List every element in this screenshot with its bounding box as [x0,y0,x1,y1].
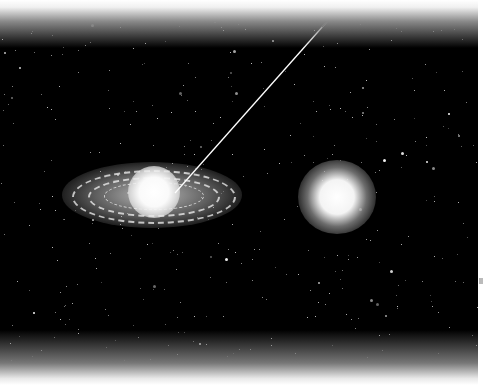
top-fade [0,0,481,48]
right-edge [478,0,481,385]
leader-line [0,0,481,385]
starfield-image [0,0,481,385]
edge-marker [479,278,483,284]
bottom-fade [0,330,481,385]
